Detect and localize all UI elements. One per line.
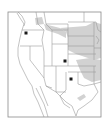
marker-colorado-dot-icon — [64, 60, 67, 63]
location-markers — [25, 32, 73, 81]
marker-oklahoma-dot-icon — [70, 78, 73, 81]
range-map — [0, 0, 108, 126]
kansas-oklahoma-range — [76, 58, 101, 82]
montana-strip-range — [44, 24, 66, 38]
map-canvas — [0, 0, 108, 126]
marker-washington-dot-icon — [25, 32, 28, 35]
washington-range — [35, 17, 44, 25]
texas-patch-range — [77, 94, 86, 101]
